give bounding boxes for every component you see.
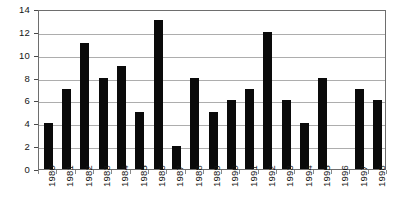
x-axis-tick: 1984 [112,176,128,218]
x-axis-tick: 1985 [131,176,147,218]
y-axis-tick-label: 2 [0,142,30,152]
bar [99,78,108,169]
x-axis-tick: 1982 [76,176,92,218]
x-axis-tick: 1993 [277,176,293,218]
bar [62,89,71,169]
x-axis-tick-label: 1992 [267,165,277,187]
bars-group [39,11,385,169]
x-axis-tick-label: 1989 [212,165,222,187]
y-axis-tick-label: 12 [0,28,30,38]
bar [318,78,327,169]
x-axis-tick-label: 1986 [157,165,167,187]
x-axis-tick: 1980 [39,176,55,218]
x-axis-tick-label: 1991 [249,165,259,187]
bar [209,112,218,169]
x-axis-tick-label: 1994 [304,165,314,187]
bar-chart-figure: 14121086420 1980198119821983198419851986… [0,0,401,219]
bar [373,100,382,169]
x-axis-tick: 1990 [222,176,238,218]
x-axis-tick: 1998 [369,176,385,218]
x-axis-tick: 1986 [149,176,165,218]
bar [245,89,254,169]
x-axis-tick-label: 1980 [47,165,57,187]
y-axis-tickmark [34,56,38,57]
x-axis-tick: 1995 [314,176,330,218]
x-axis-tick-label: 1993 [285,165,295,187]
bar [154,20,163,169]
x-axis-tick-label: 1987 [175,165,185,187]
x-axis-tick-label: 1981 [65,165,75,187]
x-axis: 1980198119821983198419851986198719881989… [38,171,386,219]
x-axis-tick: 1988 [186,176,202,218]
bar [282,100,291,169]
x-axis-tick: 1997 [351,176,367,218]
x-axis-tick-label: 1988 [194,165,204,187]
x-axis-tick-label: 1990 [230,165,240,187]
bar [355,89,364,169]
bar [80,43,89,169]
x-axis-tick: 1989 [204,176,220,218]
bar [135,112,144,169]
y-axis-tick-label: 0 [0,165,30,175]
y-axis-tick-label: 8 [0,74,30,84]
x-axis-tick-label: 1995 [322,165,332,187]
y-axis-tick-label: 14 [0,5,30,15]
x-axis-tick: 1987 [167,176,183,218]
y-axis-tickmark [34,124,38,125]
x-axis-tick: 1991 [241,176,257,218]
x-axis-tick-label: 1997 [359,165,369,187]
x-axis-tick-label: 1998 [377,165,387,187]
y-axis-tick-label: 6 [0,96,30,106]
y-axis-tickmark [34,10,38,11]
x-axis-tick-label: 1984 [120,165,130,187]
x-axis-tick-label: 1985 [139,165,149,187]
x-axis-tick: 1981 [57,176,73,218]
x-axis-tick-label: 1982 [84,165,94,187]
bar [190,78,199,169]
x-axis-tick: 1994 [296,176,312,218]
x-axis-tick-label: 1983 [102,165,112,187]
plot-area [38,10,386,170]
bar [227,100,236,169]
y-axis-tickmark [34,79,38,80]
x-axis-tick-label: 1996 [340,165,350,187]
y-axis-tickmark [34,101,38,102]
y-axis-tick-label: 10 [0,51,30,61]
y-axis-tickmark [34,147,38,148]
x-axis-tick: 1983 [94,176,110,218]
x-axis-tick: 1992 [259,176,275,218]
y-axis: 14121086420 [0,0,30,219]
x-axis-tick: 1996 [332,176,348,218]
bar [117,66,126,169]
y-axis-tick-label: 4 [0,119,30,129]
y-axis-tickmark [34,33,38,34]
bar [44,123,53,169]
bar [300,123,309,169]
bar [263,32,272,169]
y-axis-tickmark [34,170,38,171]
